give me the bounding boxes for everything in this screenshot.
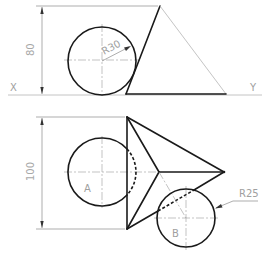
circle-a-label: A (84, 183, 91, 194)
dim-100-label: 100 (25, 162, 36, 181)
cone-generator-right (160, 6, 226, 94)
cone-apex-point (223, 171, 226, 174)
dim-80-label: 80 (25, 43, 36, 56)
front-view: X Y 80 R30 (8, 6, 262, 96)
cone-edge-bottom-visible-right (194, 172, 224, 190)
y-axis-label: Y (249, 82, 257, 93)
dim-80-arrow-top (40, 7, 43, 14)
dim-100-arrow-top (40, 118, 43, 125)
radius-r25-label: R25 (239, 188, 259, 199)
dim-100-arrow-bottom (40, 221, 43, 228)
radius-r25-arrow (215, 204, 223, 209)
radius-r30-label: R30 (100, 38, 123, 57)
cone-generator-left (126, 6, 160, 94)
technical-drawing: X Y 80 R30 100 A (0, 0, 267, 263)
radius-r30-arrow (124, 46, 131, 51)
cone-edge-top (127, 117, 224, 172)
top-view: 100 A B R25 (25, 117, 259, 250)
circle-b-label: B (172, 228, 179, 239)
axis-to-circle-b (159, 172, 186, 218)
dim-80-arrow-bottom (40, 87, 43, 94)
x-axis-label: X (10, 82, 17, 93)
